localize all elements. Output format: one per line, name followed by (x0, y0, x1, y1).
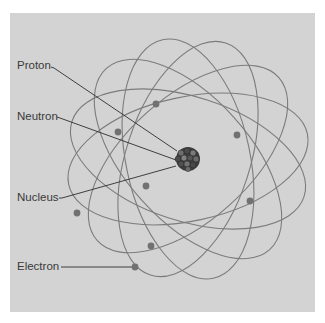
neutron (187, 155, 193, 161)
electron (153, 101, 160, 108)
electron (247, 198, 254, 205)
electron (234, 132, 241, 139)
nucleus-label: Nucleus (17, 192, 59, 204)
proton (185, 166, 190, 171)
proton-label: Proton (17, 60, 51, 72)
neutron (184, 148, 190, 154)
atom-diagram (0, 0, 325, 323)
neutron (190, 162, 196, 168)
electron (143, 183, 150, 190)
electron (115, 129, 122, 136)
nucleus (175, 147, 200, 172)
electron (132, 264, 139, 271)
proton (181, 155, 187, 161)
nucleus-leader (59, 166, 176, 198)
electron-label: Electron (17, 261, 59, 273)
proton (193, 156, 199, 162)
electron (148, 243, 155, 250)
neutron-label: Neutron (17, 111, 58, 123)
electrons (74, 101, 254, 271)
proton (184, 161, 190, 167)
electron (74, 210, 81, 217)
proton-leader (51, 67, 177, 151)
neutron (178, 161, 184, 167)
